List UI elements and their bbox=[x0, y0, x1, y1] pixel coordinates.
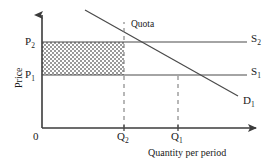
quota-rent-shaded-region bbox=[42, 42, 124, 75]
curve-label-d1: D1 bbox=[243, 95, 255, 109]
price-tick-p1: P1 bbox=[25, 69, 35, 83]
curve-label-s1: S1 bbox=[251, 66, 261, 80]
price-tick-p1-sub: 1 bbox=[31, 74, 35, 83]
quantity-tick-q1-sub: 1 bbox=[179, 136, 183, 145]
quantity-tick-q1-letter: Q bbox=[171, 130, 179, 142]
quantity-tick-q2-sub: 2 bbox=[125, 136, 129, 145]
quota-annotation-label: Quota bbox=[131, 20, 154, 30]
curve-label-d1-sub: 1 bbox=[251, 100, 255, 109]
price-tick-p2-sub: 2 bbox=[31, 41, 35, 50]
origin-label: 0 bbox=[33, 131, 39, 142]
curve-label-s2-sub: 2 bbox=[257, 38, 261, 47]
curve-label-s2: S2 bbox=[251, 33, 261, 47]
curve-label-d1-letter: D bbox=[243, 94, 251, 106]
price-tick-p2: P2 bbox=[25, 36, 35, 50]
quantity-tick-q2-letter: Q bbox=[117, 130, 125, 142]
x-axis-title: Quantity per period bbox=[148, 148, 226, 158]
curve-label-s1-sub: 1 bbox=[257, 71, 261, 80]
y-axis-title: Price bbox=[14, 67, 24, 88]
quantity-tick-q2: Q2 bbox=[117, 131, 129, 145]
quota-diagram: Price P2 P1 0 Q2 Q1 Quota S2 S1 D1 Quant… bbox=[0, 0, 276, 166]
quantity-tick-q1: Q1 bbox=[171, 131, 183, 145]
